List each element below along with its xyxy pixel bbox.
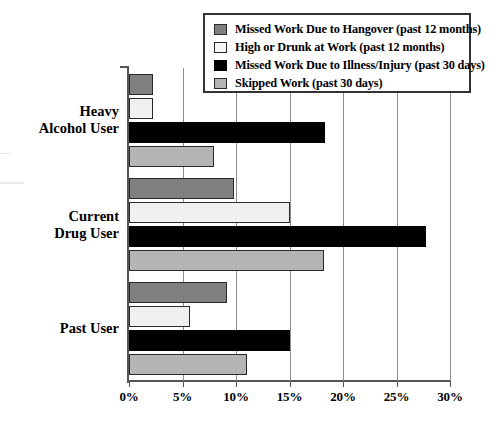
legend-swatch-icon-high-or-drunk (214, 42, 227, 53)
x-axis-tick (236, 381, 237, 387)
bar-chart: 0%5%10%15%20%25%30% Heavy Alcohol UserCu… (0, 0, 495, 431)
legend-label: Missed Work Due to Hangover (past 12 mon… (235, 22, 481, 37)
bar (129, 202, 290, 223)
x-axis-tick-label: 20% (330, 389, 355, 405)
bar (129, 282, 227, 303)
category-label: Past User (60, 320, 119, 337)
x-axis-tick (129, 381, 130, 387)
gridline (450, 68, 451, 381)
bar (129, 74, 153, 95)
legend: Missed Work Due to Hangover (past 12 mon… (203, 13, 471, 93)
legend-item: Missed Work Due to Hangover (past 12 mon… (214, 21, 469, 38)
bar (129, 178, 234, 199)
gridline (397, 68, 398, 381)
legend-swatch-icon-skipped-work (214, 78, 227, 89)
legend-item: Skipped Work (past 30 days) (214, 75, 469, 92)
x-axis-tick-label: 25% (384, 389, 409, 405)
legend-item: Missed Work Due to Illness/Injury (past … (214, 57, 469, 74)
x-axis-tick (397, 381, 398, 387)
legend-swatch-icon-illness-injury (214, 60, 227, 71)
legend-label: High or Drunk at Work (past 12 months) (235, 40, 444, 55)
gridline (290, 68, 291, 381)
category-label: Current Drug User (54, 208, 119, 242)
scan-artifact (0, 153, 10, 154)
bar (129, 226, 426, 247)
x-axis-tick (450, 381, 451, 387)
bar (129, 98, 153, 119)
legend-item: High or Drunk at Work (past 12 months) (214, 39, 469, 56)
scan-artifact (0, 182, 24, 184)
x-axis-tick (290, 381, 291, 387)
legend-label: Missed Work Due to Illness/Injury (past … (235, 58, 485, 73)
x-axis-tick-label: 10% (223, 389, 248, 405)
bar (129, 330, 290, 351)
x-axis-tick-label: 0% (119, 389, 138, 405)
bar (129, 250, 324, 271)
legend-swatch-icon-hangover (214, 24, 227, 35)
x-axis-tick (183, 381, 184, 387)
x-axis-tick (343, 381, 344, 387)
category-label: Heavy Alcohol User (39, 103, 119, 137)
gridline (343, 68, 344, 381)
x-axis-tick-label: 30% (437, 389, 462, 405)
x-axis-tick-label: 5% (173, 389, 192, 405)
x-axis-tick-label: 15% (277, 389, 302, 405)
legend-label: Skipped Work (past 30 days) (235, 76, 382, 91)
bar (129, 354, 247, 375)
bar (129, 122, 325, 143)
bar (129, 306, 190, 327)
plot-area (129, 68, 450, 381)
bar (129, 146, 214, 167)
